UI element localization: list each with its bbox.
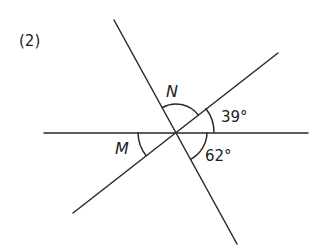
angle-arc-n xyxy=(162,104,198,115)
angle-label-n: N xyxy=(166,82,178,101)
steep-line xyxy=(114,20,237,244)
angle-label-62: 62° xyxy=(205,147,232,165)
angle-label-m: M xyxy=(115,139,129,158)
angle-arc-m xyxy=(138,133,146,156)
problem-number: (2) xyxy=(19,32,40,50)
geometry-diagram: (2) N 39° 62° M xyxy=(0,0,323,246)
angle-label-39: 39° xyxy=(221,108,248,126)
angle-arc-39 xyxy=(206,109,214,133)
